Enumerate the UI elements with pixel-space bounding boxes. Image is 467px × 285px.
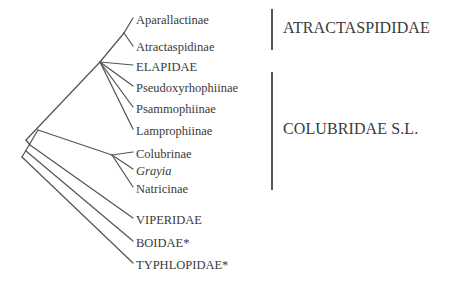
clade-label-colubridae: COLUBRIDAE S.L. xyxy=(283,121,418,137)
branch-tip-pseudoxyrhophiinae xyxy=(100,62,133,86)
tip-label-natricinae: Natricinae xyxy=(136,183,188,196)
branch-tip-lamprophiinae xyxy=(100,62,133,129)
tip-label-elapidae: ELAPIDAE xyxy=(136,61,197,74)
branch-tip-elapidae xyxy=(100,62,133,65)
branch-to-atractaspid-node xyxy=(100,33,124,62)
branch-backbone-main xyxy=(26,62,100,140)
tip-label-typhlopidae: TYPHLOPIDAE* xyxy=(136,259,228,272)
tip-label-grayia: Grayia xyxy=(136,165,171,178)
clade-label-atractaspididae: ATRACTASPIDIDAE xyxy=(283,20,430,36)
tip-label-boidae: BOIDAE* xyxy=(136,237,189,250)
branch-tip-typhlopidae xyxy=(22,157,133,263)
phylogenetic-tree-figure: Aparallactinae Atractaspidinae ELAPIDAE … xyxy=(0,0,467,285)
branch-tip-aparallactinae xyxy=(124,18,133,33)
branch-tip-grayia xyxy=(112,155,133,169)
branch-tip-viperidae xyxy=(30,145,133,218)
tip-label-lamprophiinae: Lamprophiinae xyxy=(136,125,212,138)
branch-tip-psammophiinae xyxy=(100,62,133,107)
branch-tip-colubrinae xyxy=(112,152,133,155)
tip-label-aparallactinae: Aparallactinae xyxy=(136,14,209,27)
branch-root-stem-inner xyxy=(26,140,30,145)
tip-label-viperidae: VIPERIDAE xyxy=(136,214,202,227)
branch-tip-boidae xyxy=(26,151,133,241)
branch-root-stem-outer xyxy=(22,130,38,157)
tree-branch-diagram xyxy=(0,0,467,285)
tip-label-pseudoxyrhophiinae: Pseudoxyrhophiinae xyxy=(136,82,238,95)
branch-tip-natricinae xyxy=(112,155,133,187)
tip-label-atractaspidinae: Atractaspidinae xyxy=(136,41,214,54)
tip-label-psammophiinae: Psammophiinae xyxy=(136,103,216,116)
branch-lines xyxy=(22,18,133,263)
tip-label-colubrinae: Colubrinae xyxy=(136,148,192,161)
branch-tip-atractaspidinae xyxy=(124,33,133,46)
branch-backbone-colubrid xyxy=(38,130,112,155)
